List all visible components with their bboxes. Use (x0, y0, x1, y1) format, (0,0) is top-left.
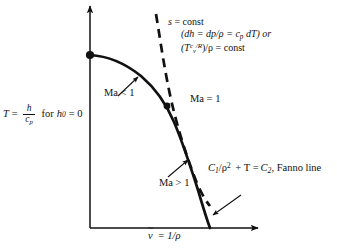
c2-symbol: C (261, 162, 268, 173)
temperature-power-open: (T (181, 42, 190, 53)
isentrope-line-2: (dh = dp/ρ = cp dT) or (168, 28, 271, 42)
stagnation-point-marker (86, 51, 94, 59)
ma-sonic-label: Ma = 1 (190, 93, 220, 106)
isentrope-annotation: s = const (dh = dp/ρ = cp dT) or (Tcv/R)… (168, 16, 271, 54)
y-label-equals: = (12, 108, 18, 121)
temperature-symbol: T (3, 108, 9, 121)
y-label-for-text: for (41, 108, 53, 121)
temperature-power-close: )/ρ = const (202, 42, 245, 53)
dt-or-text: dT) or (246, 28, 271, 39)
c1-symbol: C (208, 162, 215, 173)
isentrope-line-3: (Tcv/R)/ρ = const (168, 42, 271, 54)
ma-supersonic-pointer (168, 160, 188, 177)
tilde-accent: ~ (148, 223, 153, 233)
x-axis-label: ~v =1/ρ (148, 230, 180, 243)
fanno-line-text: , Fanno line (271, 162, 321, 173)
fanno-line-equation: C1/ρ2 + T =C2, Fanno line (208, 162, 321, 176)
rho-squared-exponent: 2 (227, 161, 231, 170)
density-symbol: ρ (175, 230, 180, 241)
ma-supersonic-label: Ma > 1 (159, 177, 189, 190)
enthalpy-symbol: h (25, 104, 34, 114)
ma-subsonic-label: Ma < 1 (104, 87, 134, 100)
cp-subscript: p (240, 33, 244, 41)
cp-symbol: cp (23, 115, 35, 125)
sonic-point-marker (164, 103, 171, 110)
x-label-equals: = (158, 230, 164, 241)
fanno-pointer (213, 195, 241, 215)
stagnation-enthalpy-subscript: 0 (62, 110, 66, 119)
y-label-zero-value: = 0 (69, 108, 83, 121)
enthalpy-over-cp-fraction: h cp (23, 104, 35, 125)
specific-volume-symbol: ~v (148, 230, 153, 243)
y-axis-label: T = h cp for h0 = 0 (3, 104, 82, 125)
entropy-symbol: s (168, 16, 172, 27)
over-rho-text: /ρ (219, 162, 227, 173)
isentrope-line-1: s = const (168, 16, 271, 28)
fanno-line-diagram: s = const (dh = dp/ρ = cp dT) or (Tcv/R)… (0, 0, 337, 248)
isentrope-const-text: = const (174, 16, 203, 27)
fanno-curve (90, 55, 210, 228)
enthalpy-relation-text: (dh = dp/ρ = c (181, 28, 240, 39)
plus-temperature-text: + T = (235, 162, 258, 173)
